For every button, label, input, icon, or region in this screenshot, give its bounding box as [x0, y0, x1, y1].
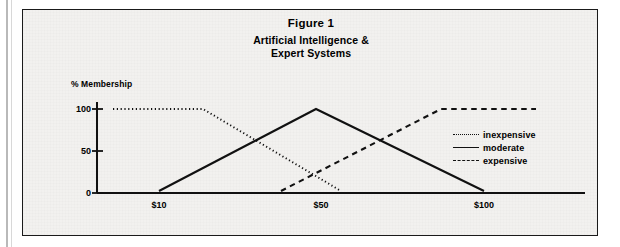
legend-label-inexpensive: inexpensive: [483, 130, 536, 140]
membership-function-plot: [23, 10, 599, 237]
dashed-line-icon: [453, 156, 479, 166]
page-margin-rule: [6, 0, 8, 247]
figure-frame: Figure 1 Artificial Intelligence & Exper…: [22, 9, 598, 236]
page-margin-rule-secondary: [11, 0, 12, 247]
solid-line-icon: [453, 143, 479, 153]
dotted-line-icon: [453, 130, 479, 140]
scanned-page: Figure 1 Artificial Intelligence & Exper…: [0, 0, 620, 247]
series-line-inexpensive: [113, 109, 341, 191]
plot-area: % Membership 100 50 0 $10 $50 $100: [23, 10, 599, 237]
chart-legend: inexpensive moderate expensive: [453, 128, 583, 167]
legend-item-inexpensive: inexpensive: [453, 128, 583, 141]
legend-item-moderate: moderate: [453, 141, 583, 154]
legend-label-expensive: expensive: [483, 156, 527, 166]
legend-label-moderate: moderate: [483, 143, 524, 153]
legend-item-expensive: expensive: [453, 154, 583, 167]
series-line-moderate: [159, 109, 484, 191]
